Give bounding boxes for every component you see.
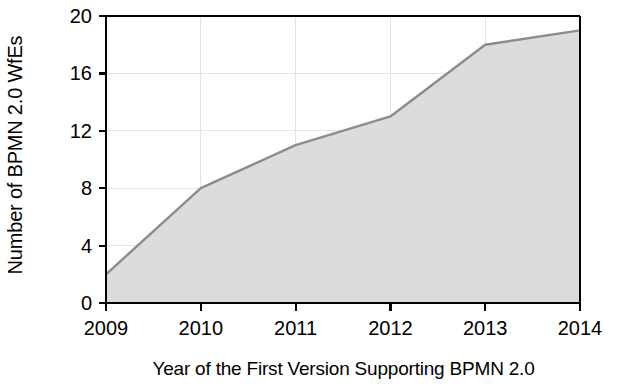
x-tick-label: 2013 [440,318,530,338]
x-tick-label: 2011 [251,318,341,338]
area-chart: Number of BPMN 2.0 WfEs 201612840 200920… [0,0,621,387]
x-axis-title: Year of the First Version Supporting BPM… [106,358,581,380]
x-tick-label: 2014 [535,318,621,338]
x-axis-tick-labels: 200920102011201220132014 [0,0,621,387]
x-tick-label: 2010 [156,318,246,338]
x-tick-label: 2012 [345,318,435,338]
x-tick-label: 2009 [61,318,151,338]
